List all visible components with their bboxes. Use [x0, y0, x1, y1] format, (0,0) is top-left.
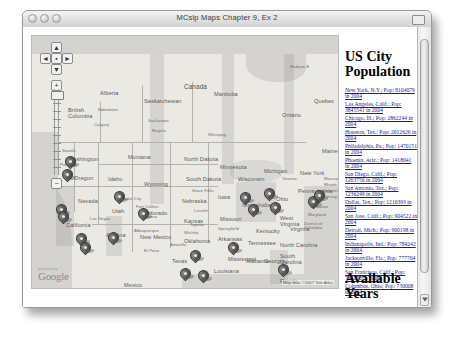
- map-label: Amarillo: [170, 242, 186, 247]
- map-label: North Carolina: [280, 242, 317, 248]
- page-content: CanadaHudson BAlbertaSaskatchewanManitob…: [23, 27, 418, 307]
- city-list-item[interactable]: Los Angeles, Calif.; Pop: 3845541 in 200…: [345, 101, 417, 114]
- screenshot-root: MCslp Maps Chapter 9, Ex 2: [0, 0, 454, 348]
- map-marker-san-diego[interactable]: [80, 242, 89, 255]
- map-label: Winnipeg: [208, 132, 226, 137]
- zoom-slider[interactable]: [51, 89, 62, 175]
- city-list-item[interactable]: Detroit, Mich.; Pop: 900198 in 2004: [345, 227, 417, 240]
- pan-left-button[interactable]: ◄: [40, 53, 51, 64]
- map-label: Kentucky: [256, 228, 280, 234]
- zoom-slider-knob[interactable]: [51, 91, 64, 100]
- map-label: North Dakota: [184, 156, 218, 162]
- map-label: Iowa: [218, 194, 230, 200]
- map-border-h3: [98, 164, 218, 165]
- map-marker-indianapolis[interactable]: [248, 204, 257, 217]
- map-label: Maine: [322, 148, 338, 154]
- map-border-h1: [58, 186, 218, 187]
- city-list-item[interactable]: Chicago, Ill.; Pop: 2862244 in 2004: [345, 115, 417, 128]
- map-label: Canada: [184, 83, 207, 90]
- scrollbar-thumb[interactable]: [420, 39, 429, 273]
- map-marker-columbus[interactable]: [270, 202, 279, 215]
- window-title: MCslp Maps Chapter 9, Ex 2: [23, 13, 431, 22]
- map-label: El Paso: [144, 248, 159, 253]
- map-marker-portland[interactable]: [62, 169, 71, 182]
- map-label: Springfield: [218, 226, 239, 231]
- map-label: Ontario: [282, 112, 301, 118]
- map-label: Manitoba: [214, 91, 238, 97]
- map-marker-seattle[interactable]: [65, 156, 74, 169]
- map-marker-detroit[interactable]: [264, 188, 273, 201]
- page-title: US City Population: [345, 49, 417, 79]
- map-border-v8: [192, 82, 193, 142]
- map-label: Albuquerque: [134, 228, 159, 233]
- map-label: Toronto: [282, 176, 297, 181]
- application-window: MCslp Maps Chapter 9, Ex 2: [22, 10, 432, 308]
- map-label: Oregon: [74, 175, 93, 181]
- pan-center-button[interactable]: ▪: [51, 53, 62, 64]
- city-list-item[interactable]: Dallas, Tex.; Pop: 1210393 in 2004: [345, 199, 417, 212]
- city-list-item[interactable]: Phoenix, Ariz.; Pop: 1418041 in 2004: [345, 157, 417, 170]
- city-list-item[interactable]: San Jose, Calif.; Pop: 904522 in 2004: [345, 213, 417, 226]
- city-population-list: New York, N.Y.; Pop: 8104079 in 2004Los …: [345, 87, 417, 296]
- map-marker-new-york[interactable]: [314, 190, 323, 203]
- map-marker-denver[interactable]: [138, 208, 147, 221]
- map-marker-san-antonio[interactable]: [180, 268, 189, 281]
- city-list-item[interactable]: San Antonio, Tex.; Pop: 1236249 in 2004: [345, 185, 417, 198]
- sidebar: US City Population New York, N.Y.; Pop: …: [345, 35, 417, 303]
- map-label: Wichita: [184, 230, 198, 235]
- city-list-item[interactable]: Houston, Tex.; Pop: 2012626 in 2004: [345, 129, 417, 142]
- map-label: Louisiana: [214, 268, 239, 274]
- city-list-item[interactable]: Philadelphia, Pa.; Pop: 1470151 in 2004: [345, 143, 417, 156]
- map-label: Calgary: [94, 122, 109, 127]
- map-label: Seattle: [62, 148, 76, 153]
- map-label: Sioux Falls: [192, 188, 214, 193]
- map-border-v7: [142, 86, 143, 142]
- map-border-v1: [98, 142, 99, 224]
- map-label: District of Columbia: [304, 222, 323, 231]
- map-marker-jacksonville[interactable]: [278, 264, 287, 277]
- map-label: Edmonton: [98, 107, 118, 112]
- map-label: South Dakota: [186, 176, 221, 182]
- map-label: New Mexico: [140, 234, 171, 240]
- map-label: Montana: [128, 154, 150, 160]
- map-label: Michigan: [264, 168, 287, 174]
- city-list-item[interactable]: Indianapolis, Ind.; Pop: 784242 in 2004: [345, 241, 417, 254]
- google-logo[interactable]: powered by Google: [38, 267, 69, 282]
- map-label: Saskatoon: [148, 118, 169, 123]
- map-label: Texas: [172, 258, 187, 264]
- map-label: Maryland: [308, 212, 326, 217]
- map-label: Massachusetts: [324, 176, 339, 181]
- city-list-item[interactable]: San Diego, Calif.; Pop: 1263756 in 2004: [345, 171, 417, 184]
- map-marker-salt-lake-city[interactable]: [114, 191, 123, 204]
- map-marker-houston[interactable]: [198, 270, 207, 283]
- map-label: California: [66, 222, 91, 228]
- city-list-item[interactable]: New York, N.Y.; Pop: 8104079 in 2004: [345, 87, 417, 100]
- scroll-down-button[interactable]: [420, 294, 429, 306]
- available-years-title: Available Years: [345, 271, 417, 301]
- map-label: Nebraska: [182, 198, 207, 204]
- map-label: Rhode Island: [324, 182, 339, 187]
- map-label: Hudson B: [290, 64, 309, 69]
- map-label: Saskatchewan: [144, 98, 182, 104]
- map-marker-san-jose[interactable]: [58, 211, 67, 224]
- pan-down-button[interactable]: ▼: [51, 64, 62, 75]
- map-marker-phoenix[interactable]: [108, 232, 117, 245]
- pan-right-button[interactable]: ►: [62, 53, 73, 64]
- window-toolbar-toggle-button[interactable]: [412, 15, 425, 25]
- map-label: Tennessee: [248, 240, 276, 246]
- window-titlebar[interactable]: MCslp Maps Chapter 9, Ex 2: [23, 11, 431, 28]
- map-canvas[interactable]: CanadaHudson BAlbertaSaskatchewanManitob…: [32, 36, 338, 288]
- map-label: Utah: [112, 208, 124, 214]
- zoom-out-button[interactable]: −: [51, 178, 62, 189]
- map-marker-memphis[interactable]: [228, 242, 237, 255]
- map-border-canada-us: [58, 142, 306, 143]
- city-list-item[interactable]: Jacksonville, Fla.; Pop: 777704 in 2004: [345, 255, 417, 268]
- map-label: Wyoming: [144, 181, 168, 187]
- map-marker-dallas[interactable]: [190, 250, 199, 263]
- map-label: Gulf of Mexico: [208, 288, 226, 289]
- pan-up-button[interactable]: ▲: [51, 42, 62, 53]
- vertical-scrollbar[interactable]: [417, 27, 431, 307]
- google-map[interactable]: CanadaHudson BAlbertaSaskatchewanManitob…: [31, 35, 339, 289]
- map-label: Las Vegas: [90, 216, 110, 221]
- map-label: Quebec: [314, 98, 334, 104]
